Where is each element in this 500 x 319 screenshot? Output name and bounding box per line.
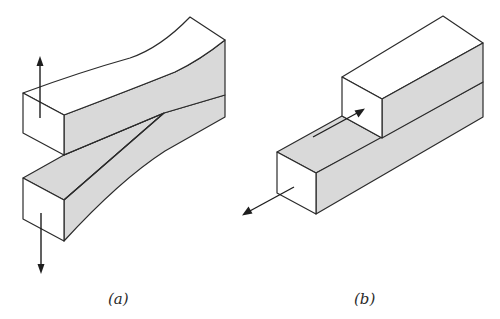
panel-a-caption: (a) <box>108 290 129 308</box>
panel-b-mode-ii-sliding <box>242 16 483 216</box>
fracture-modes-diagram <box>0 0 500 319</box>
panel-b-caption: (b) <box>354 290 375 308</box>
panel-a-mode-i-opening <box>23 17 225 274</box>
backward-shear-arrow-icon <box>242 187 294 216</box>
